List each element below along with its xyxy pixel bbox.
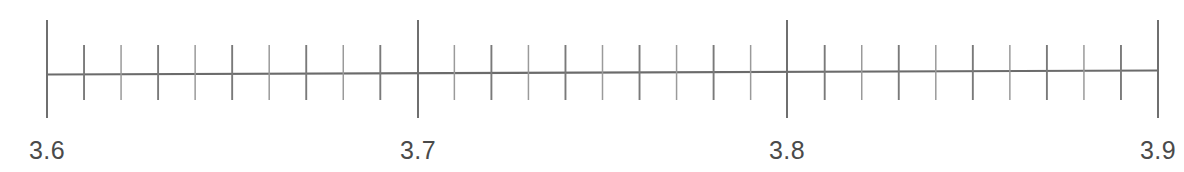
number-line-graphic <box>0 0 1184 172</box>
tick-label: 3.8 <box>769 138 805 163</box>
tick-label: 3.7 <box>400 138 436 163</box>
tick-label: 3.6 <box>29 138 65 163</box>
number-line-figure: 3.63.73.83.9 <box>0 0 1184 172</box>
tick-label: 3.9 <box>1140 138 1176 163</box>
minor-tick-group <box>84 45 1121 100</box>
